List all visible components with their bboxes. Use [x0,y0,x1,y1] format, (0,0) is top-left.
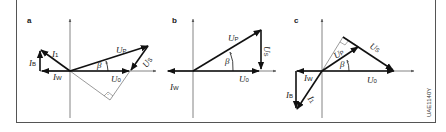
label-Iw: IW [303,73,313,83]
label-Up: UP [228,33,239,43]
label-U0: U0 [367,75,378,85]
label-Ib: IB [28,58,36,68]
angle-arc [230,52,233,71]
label-beta: β [339,59,345,69]
panel-c: c UP US U0 β IW IB I1 UAE1140Y [285,16,432,118]
phasor-diagrams: a · UP US U0 β IW I1 IB b UP [0,0,446,132]
label-I1: I1 [51,49,59,59]
label-Us: US [368,41,382,55]
label-U0: U0 [239,74,250,84]
label-Us: US [262,46,272,57]
label-Iw: IW [52,72,62,82]
label-Iw: IW [169,82,179,92]
panel-b-label: b [172,16,177,25]
vector-Up [70,46,148,71]
panel-a-label: a [27,16,32,25]
panel-b: b UP US U0 β IW [167,16,276,118]
panel-a: a · UP US U0 β IW I1 IB [27,16,156,118]
label-beta: β [224,56,230,66]
panel-c-label: c [294,16,299,25]
label-Ib: IB [285,90,293,100]
label-Us: US [140,55,154,69]
angle-arc [347,60,349,71]
angle-arc [106,61,108,71]
vector-Us [343,37,393,70]
label-beta: β [96,60,102,70]
label-Up: UP [116,45,127,55]
figure-code: UAE1140Y [426,88,432,117]
label-U0: U0 [111,74,122,84]
